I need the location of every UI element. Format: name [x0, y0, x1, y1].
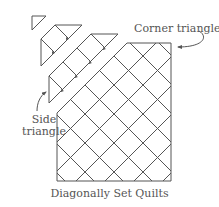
- corner-triangle-label: Corner triangle: [134, 23, 219, 35]
- row-strip-2: [35, 20, 131, 116]
- corner-triangle-piece: [32, 16, 46, 30]
- row-strip-1: [27, 25, 95, 93]
- side-triangle-label: Side triangle: [22, 114, 66, 138]
- side-triangle-label-line2: triangle: [22, 126, 66, 138]
- diagram-caption: Diagonally Set Quilts: [0, 188, 219, 200]
- side-triangle-arrow: [37, 92, 46, 111]
